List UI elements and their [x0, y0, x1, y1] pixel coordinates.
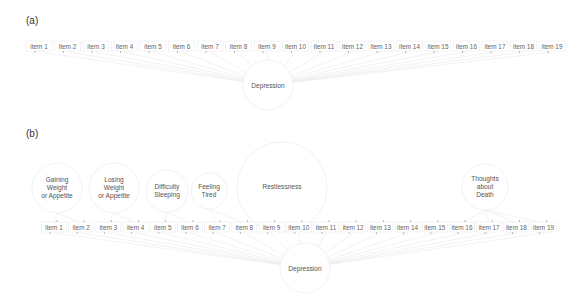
specific-factor-node: Restlessness [237, 142, 327, 232]
specific-factor-node: DifficultySleeping [146, 170, 188, 212]
specific-loading-edge [54, 213, 57, 223]
specific-factor-node: ThoughtsaboutDeath [462, 164, 508, 210]
loading-edge [54, 233, 305, 268]
latent-label: Depression [288, 265, 322, 273]
panel-b: (b) GainingWeightor AppetiteLosingWeight… [26, 128, 556, 293]
factor-label: Weight [47, 184, 68, 192]
factor-label: Feeling [198, 183, 220, 191]
specific-factor-node: GainingWeightor Appetite [32, 163, 82, 213]
item-label: item 13 [370, 224, 391, 231]
item-label: item 7 [201, 43, 219, 50]
item-label: item 11 [316, 224, 337, 231]
item-label: item 3 [87, 43, 105, 50]
factor-label: Death [476, 191, 494, 198]
item-label: item 2 [72, 224, 90, 231]
loading-edge [305, 233, 489, 268]
loading-edge [68, 52, 269, 85]
specific-factor-node: FeelingTired [191, 173, 227, 209]
factor-label: Gaining [46, 176, 69, 184]
loading-edge [305, 233, 516, 268]
item-label: item 16 [452, 224, 473, 231]
loading-edge [136, 233, 305, 268]
path-diagram: (a) item 1item 2item 3item 4item 5item 6… [0, 0, 566, 299]
factor-label: Thoughts [471, 175, 499, 183]
item-label: item 17 [479, 224, 500, 231]
item-label: item 19 [533, 224, 554, 231]
factor-label: about [477, 183, 494, 190]
item-label: item 3 [100, 224, 118, 231]
factor-label: Sleeping [154, 191, 180, 199]
item-label: item 1 [45, 224, 63, 231]
loading-edge [81, 233, 305, 268]
factor-label: or Appetite [98, 192, 130, 200]
item-label: item 9 [263, 224, 281, 231]
factor-label: Tired [202, 191, 217, 198]
factor-label: Losing [104, 176, 124, 184]
item-label: item 5 [144, 43, 162, 50]
specific-factor-node: LosingWeightor Appetite [89, 163, 139, 213]
item-label: item 12 [342, 43, 363, 50]
panel-a-edges [39, 52, 552, 85]
specific-loading-edge [485, 210, 516, 223]
item-label: item 8 [230, 43, 248, 50]
item-label: item 14 [399, 43, 420, 50]
item-label: item 4 [116, 43, 134, 50]
item-label: item 5 [154, 224, 172, 231]
specific-loading-edge [114, 213, 136, 223]
panel-b-latent-node: Depression [280, 243, 330, 293]
specific-loading-edge [209, 209, 244, 223]
panel-a-label: (a) [26, 15, 38, 26]
specific-loading-edge [167, 212, 190, 223]
item-label: item 6 [181, 224, 199, 231]
loading-edge [268, 52, 524, 85]
item-label: item 4 [127, 224, 145, 231]
factor-label: Restlessness [262, 183, 302, 190]
item-label: item 11 [314, 43, 335, 50]
item-label: item 7 [208, 224, 226, 231]
loading-edge [268, 52, 467, 85]
panel-a-latent-node: Depression [243, 60, 293, 110]
item-label: item 12 [343, 224, 364, 231]
panel-b-items: item 1item 2item 3item 4item 5item 6item… [42, 220, 557, 234]
loading-edge [39, 52, 268, 85]
specific-loading-edge [163, 212, 167, 223]
factor-label: or Appetite [41, 192, 73, 200]
factor-label: Difficulty [155, 183, 180, 191]
loading-edge [268, 52, 438, 85]
loading-edge [268, 52, 495, 85]
specific-loading-edge [57, 213, 81, 223]
item-label: item 10 [285, 43, 306, 50]
item-label: item 8 [236, 224, 254, 231]
item-label: item 16 [456, 43, 477, 50]
panel-b-specific-factors: GainingWeightor AppetiteLosingWeightor A… [32, 142, 508, 232]
panel-b-label: (b) [26, 128, 38, 139]
loading-edge [96, 52, 268, 85]
item-label: item 18 [513, 43, 534, 50]
loading-edge [305, 233, 544, 268]
item-label: item 17 [485, 43, 506, 50]
panel-a: (a) item 1item 2item 3item 4item 5item 6… [26, 15, 565, 110]
item-label: item 9 [258, 43, 276, 50]
panel-a-items: item 1item 2item 3item 4item 5item 6item… [26, 41, 565, 53]
factor-label: Weight [104, 184, 125, 192]
specific-loading-edge [209, 209, 217, 223]
item-label: item 6 [173, 43, 191, 50]
item-label: item 10 [288, 224, 309, 231]
latent-label: Depression [251, 82, 285, 90]
specific-loading-edge [462, 210, 485, 223]
specific-loading-edge [485, 210, 544, 223]
item-label: item 18 [506, 224, 527, 231]
item-label: item 14 [397, 224, 418, 231]
item-label: item 15 [428, 43, 449, 50]
specific-loading-edge [485, 210, 489, 223]
item-label: item 13 [371, 43, 392, 50]
item-label: item 15 [424, 224, 445, 231]
item-label: item 19 [542, 43, 563, 50]
item-label: item 1 [30, 43, 48, 50]
item-label: item 2 [59, 43, 77, 50]
